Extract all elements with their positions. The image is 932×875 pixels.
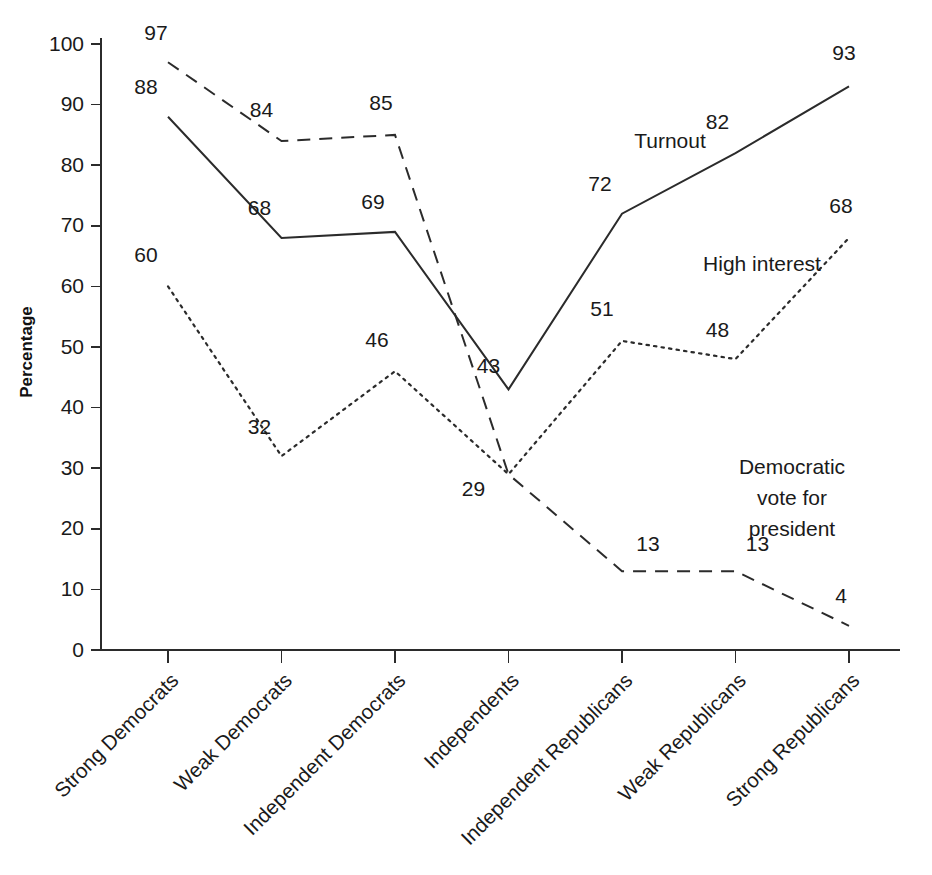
point-value-label: 29 <box>462 477 485 500</box>
series-annotation-label: vote for <box>757 486 827 509</box>
x-category-label: Weak Democrats <box>169 668 296 795</box>
point-value-label: 32 <box>248 415 271 438</box>
series-annotation-label: High interest <box>703 252 821 275</box>
line-chart-plot: 0102030405060708090100 Percentage 886869… <box>0 0 932 875</box>
point-value-label: 48 <box>706 318 729 341</box>
y-tick-label: 100 <box>49 32 84 55</box>
series-annotation-label: Turnout <box>634 129 706 152</box>
x-axis-category-labels: Strong DemocratsWeak DemocratsIndependen… <box>50 668 864 849</box>
x-category-label: Weak Republicans <box>613 668 750 805</box>
point-value-label: 69 <box>361 190 384 213</box>
point-value-label: 51 <box>590 297 613 320</box>
point-value-label: 72 <box>588 172 611 195</box>
axes-group <box>101 38 900 650</box>
point-value-label: 68 <box>829 194 852 217</box>
series-annotation-label: president <box>749 517 836 540</box>
series-annotation-label: Democratic <box>739 455 845 478</box>
x-axis-ticks <box>168 650 849 663</box>
x-category-label: Independents <box>419 668 523 772</box>
point-value-label: 82 <box>706 110 729 133</box>
y-tick-label: 50 <box>61 335 84 358</box>
point-value-label: 93 <box>832 41 855 64</box>
point-value-label: 46 <box>365 328 388 351</box>
y-tick-label: 30 <box>61 456 84 479</box>
point-value-labels-group: 886869437282939784852913134603246514868 <box>134 21 855 608</box>
y-tick-label: 80 <box>61 153 84 176</box>
point-value-label: 60 <box>134 243 157 266</box>
point-value-label: 13 <box>636 532 659 555</box>
point-value-label: 84 <box>250 98 274 121</box>
y-tick-label: 60 <box>61 274 84 297</box>
y-tick-label: 10 <box>61 577 84 600</box>
y-tick-label: 70 <box>61 213 84 236</box>
point-value-label: 85 <box>369 91 392 114</box>
series-line-turnout <box>168 86 849 389</box>
y-tick-label: 0 <box>72 638 84 661</box>
y-tick-label: 40 <box>61 395 84 418</box>
x-category-label: Strong Democrats <box>50 668 183 801</box>
y-tick-label: 90 <box>61 92 84 115</box>
point-value-label: 88 <box>134 75 157 98</box>
point-value-label: 97 <box>144 21 167 44</box>
y-axis-ticks: 0102030405060708090100 <box>49 32 101 661</box>
y-axis-title: Percentage <box>17 306 36 398</box>
point-value-label: 43 <box>477 354 500 377</box>
y-tick-label: 20 <box>61 516 84 539</box>
point-value-label: 4 <box>835 584 847 607</box>
chart-container: 0102030405060708090100 Percentage 886869… <box>0 0 932 875</box>
point-value-label: 68 <box>248 196 271 219</box>
